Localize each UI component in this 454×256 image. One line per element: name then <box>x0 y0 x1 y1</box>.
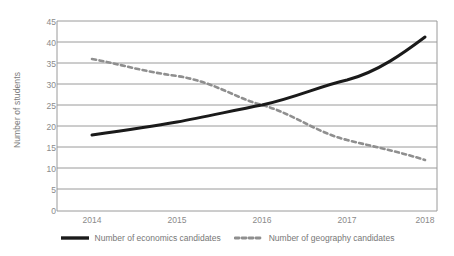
series-line-geography <box>92 59 425 160</box>
legend-item-economics[interactable]: Number of economics candidates <box>60 233 221 243</box>
chart-legend: Number of economics candidates Number of… <box>0 233 454 243</box>
axis-lines <box>57 21 437 211</box>
legend-item-geography[interactable]: Number of geography candidates <box>234 233 395 243</box>
line-chart: Number of students 45 40 35 30 25 20 15 … <box>0 0 454 256</box>
legend-line-solid-icon <box>60 233 90 243</box>
legend-label-economics: Number of economics candidates <box>95 234 221 243</box>
grid-lines <box>57 21 437 211</box>
plot-area <box>0 0 454 256</box>
legend-label-geography: Number of geography candidates <box>269 234 395 243</box>
series-line-economics <box>92 37 425 135</box>
legend-line-dashed-icon <box>234 233 264 243</box>
